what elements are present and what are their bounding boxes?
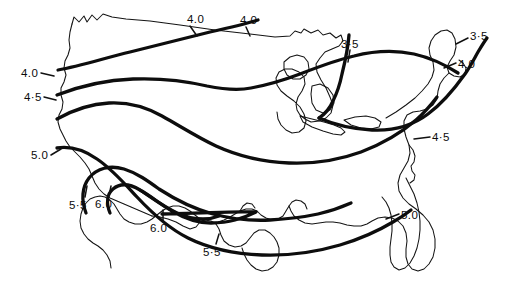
label-4p0-west-coast: 4.0 bbox=[21, 68, 38, 80]
leader-6p0-southwest bbox=[109, 186, 111, 196]
contour-map-figure: 4.04.03·53·54.04.04·54·55.05·56.06.05·55… bbox=[0, 0, 506, 291]
label-3p5-northeast: 3·5 bbox=[470, 31, 488, 43]
leader-4p5-west-coast bbox=[44, 97, 56, 100]
label-4p5-mid-atlantic: 4·5 bbox=[432, 132, 450, 144]
label-5p5-southwest: 5·5 bbox=[69, 200, 87, 212]
label-4p0-northeast: 4.0 bbox=[458, 59, 475, 71]
leader-4p0-north-east bbox=[246, 27, 250, 36]
label-4p5-west-coast: 4·5 bbox=[24, 92, 42, 104]
leader-5p5-texas bbox=[216, 234, 219, 244]
label-6p0-southwest: 6.0 bbox=[95, 199, 112, 211]
label-5p5-texas: 5·5 bbox=[203, 247, 221, 259]
label-3p5-great-lakes: 3·5 bbox=[341, 39, 359, 51]
contour-line-4p0-main bbox=[57, 52, 458, 95]
leader-3p5-northeast bbox=[456, 38, 468, 44]
contour-line-6p0-tail bbox=[140, 190, 219, 219]
label-5p0-california: 5.0 bbox=[31, 150, 48, 162]
label-5p0-southeast: 5.0 bbox=[401, 210, 418, 222]
leader-4p5-mid-atlantic bbox=[414, 137, 430, 139]
contour-map-canvas bbox=[0, 0, 506, 291]
label-4p0-north-east: 4.0 bbox=[240, 15, 257, 27]
leader-4p0-west-coast bbox=[41, 73, 54, 76]
contour-line-4p0-north bbox=[58, 20, 258, 70]
leader-5p0-california bbox=[51, 149, 61, 155]
label-4p0-north-central: 4.0 bbox=[187, 14, 204, 26]
label-6p0-texas: 6.0 bbox=[150, 223, 167, 235]
